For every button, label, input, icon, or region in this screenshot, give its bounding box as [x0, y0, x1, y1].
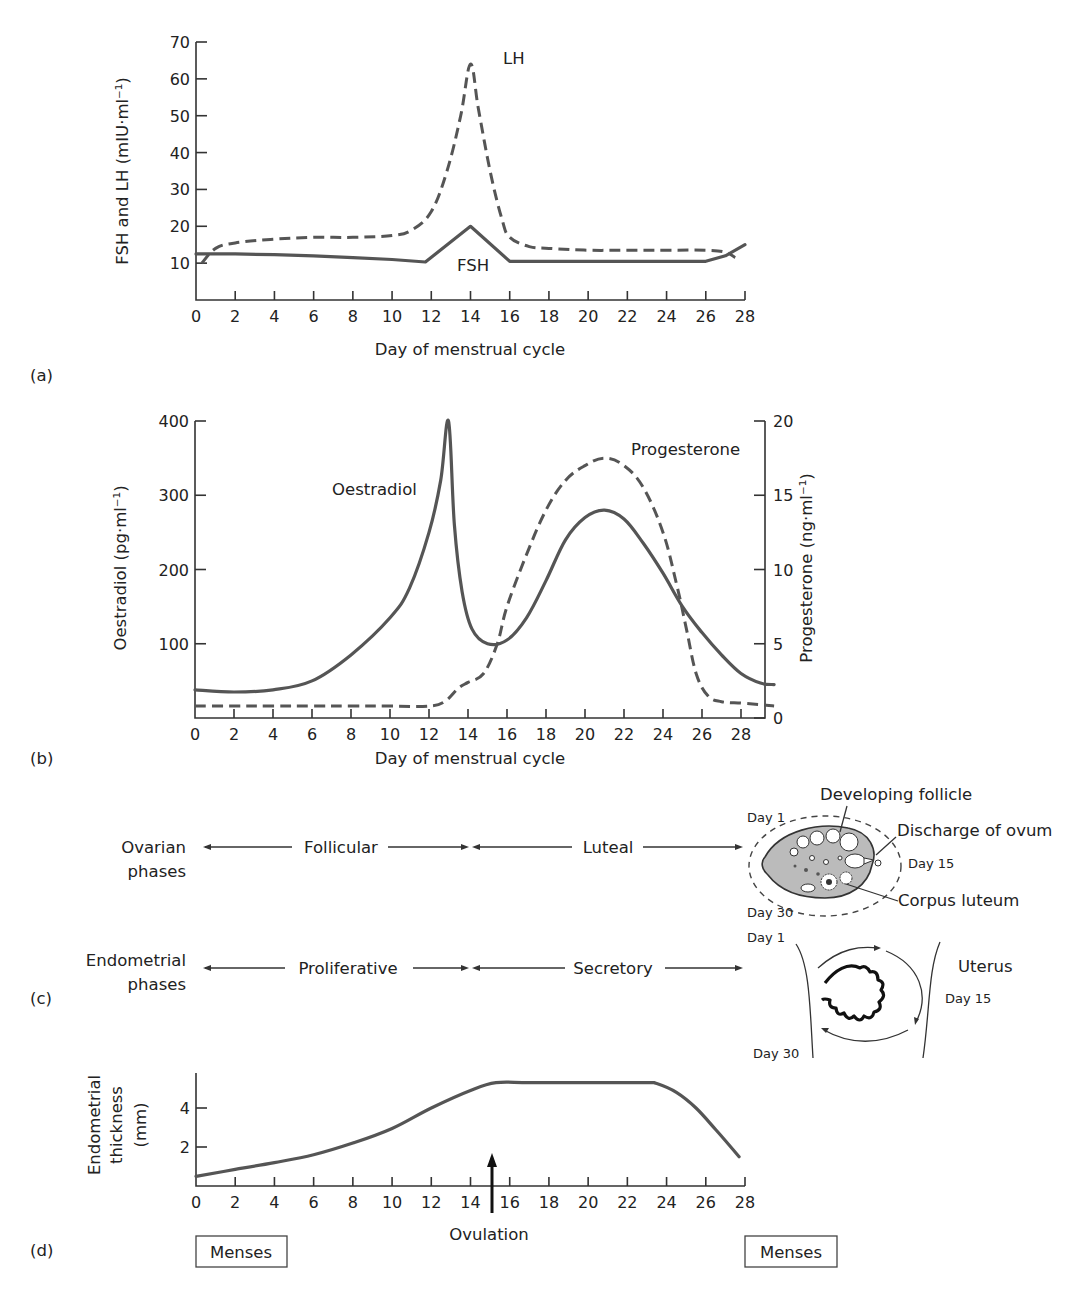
- x-tick-label: 14: [460, 1193, 480, 1212]
- x-tick-label: 0: [191, 307, 201, 326]
- x-tick-label: 24: [656, 1193, 676, 1212]
- fsh-label: FSH: [457, 256, 489, 275]
- panel-b-chart: 0246810121416182022242628100200300400051…: [30, 412, 816, 768]
- x-tick-label: 20: [578, 307, 598, 326]
- secretory-label: Secretory: [573, 959, 653, 978]
- x-tick-label: 24: [656, 307, 676, 326]
- x-tick-label: 28: [735, 1193, 755, 1212]
- progesterone-label: Progesterone: [631, 440, 740, 459]
- x-tick-label: 2: [230, 307, 240, 326]
- x-tick-label: 16: [500, 1193, 520, 1212]
- discharge-of-ovum-label: Discharge of ovum: [897, 821, 1052, 840]
- x-tick-label: 16: [497, 725, 517, 744]
- panel-a-ylabel: FSH and LH (mIU·ml⁻¹): [113, 77, 132, 265]
- panel-d-label: (d): [30, 1241, 53, 1260]
- ovary-day15-label: Day 15: [908, 856, 954, 871]
- lh-label: LH: [503, 49, 525, 68]
- developing-follicle-label: Developing follicle: [820, 785, 972, 804]
- panel-b-ylabel-right: Progesterone (ng·ml⁻¹): [797, 473, 816, 662]
- panel-a-chart: 024681012141618202224262810203040506070 …: [30, 33, 755, 385]
- panel-d-ylabel-2: thickness: [107, 1086, 126, 1164]
- x-tick-label: 12: [421, 1193, 441, 1212]
- x-tick-label: 10: [382, 307, 402, 326]
- panel-d-chart: 024681012141618202224262824 Ovulation En…: [30, 1073, 837, 1267]
- y-tick-label: 100: [158, 635, 189, 654]
- x-tick-label: 20: [575, 725, 595, 744]
- x-tick-label: 16: [500, 307, 520, 326]
- y-right-tick-label: 20: [773, 412, 793, 431]
- x-tick-label: 20: [578, 1193, 598, 1212]
- x-tick-label: 22: [614, 725, 634, 744]
- x-tick-label: 4: [269, 1193, 279, 1212]
- x-tick-label: 26: [692, 725, 712, 744]
- x-tick-label: 12: [419, 725, 439, 744]
- x-tick-label: 8: [348, 307, 358, 326]
- x-tick-label: 26: [696, 1193, 716, 1212]
- ovarian-title-2: phases: [128, 862, 186, 881]
- y-tick-label: 400: [158, 412, 189, 431]
- uterus-label: Uterus: [958, 957, 1013, 976]
- progesterone-series: [195, 458, 774, 706]
- y-right-tick-label: 15: [773, 486, 793, 505]
- axis-lines: [195, 421, 765, 718]
- x-tick-label: 10: [382, 1193, 402, 1212]
- x-tick-label: 8: [348, 1193, 358, 1212]
- endometrial-title-2: phases: [128, 975, 186, 994]
- y-tick-label: 2: [180, 1138, 190, 1157]
- ovulation-label: Ovulation: [449, 1225, 529, 1244]
- panel-b-ylabel-left: Oestradiol (pg·ml⁻¹): [111, 485, 130, 650]
- ovary-day30-label: Day 30: [747, 905, 793, 920]
- y-tick-label: 50: [170, 107, 190, 126]
- x-tick-label: 28: [735, 307, 755, 326]
- x-tick-label: 14: [460, 307, 480, 326]
- x-tick-label: 18: [536, 725, 556, 744]
- panel-c-phases: Ovarian phases Follicular Luteal Endomet…: [30, 785, 1052, 1061]
- oestradiol-series: [195, 420, 774, 692]
- follicular-label: Follicular: [304, 838, 378, 857]
- endometrial-title-1: Endometrial: [86, 951, 186, 970]
- x-tick-label: 2: [230, 1193, 240, 1212]
- x-tick-label: 6: [309, 1193, 319, 1212]
- y-tick-label: 70: [170, 33, 190, 52]
- y-tick-label: 10: [170, 254, 190, 273]
- y-tick-label: 40: [170, 144, 190, 163]
- uterus-day30-label: Day 30: [753, 1046, 799, 1061]
- ovarian-title-1: Ovarian: [121, 838, 186, 857]
- x-tick-label: 22: [617, 307, 637, 326]
- x-tick-label: 22: [617, 1193, 637, 1212]
- x-tick-label: 0: [191, 1193, 201, 1212]
- proliferative-label: Proliferative: [298, 959, 397, 978]
- panel-a-xlabel: Day of menstrual cycle: [375, 340, 566, 359]
- panel-a-label: (a): [30, 366, 53, 385]
- corpus-luteum-label: Corpus luteum: [898, 891, 1019, 910]
- x-tick-label: 12: [421, 307, 441, 326]
- y-right-tick-label: 5: [773, 635, 783, 654]
- y-right-tick-label: 0: [773, 709, 783, 728]
- x-tick-label: 4: [268, 725, 278, 744]
- y-tick-label: 4: [180, 1099, 190, 1118]
- menses-right-label: Menses: [760, 1243, 822, 1262]
- uterus-day15-label: Day 15: [945, 991, 991, 1006]
- ovulation-arrow-icon: [487, 1153, 497, 1213]
- panel-b-label: (b): [30, 749, 53, 768]
- panel-b-xlabel: Day of menstrual cycle: [375, 749, 566, 768]
- y-tick-label: 300: [158, 486, 189, 505]
- uterus-diagram: [796, 942, 940, 1058]
- panel-d-ylabel-1: Endometrial: [85, 1075, 104, 1175]
- x-tick-label: 28: [731, 725, 751, 744]
- x-tick-label: 14: [458, 725, 478, 744]
- x-tick-label: 26: [696, 307, 716, 326]
- x-tick-label: 6: [309, 307, 319, 326]
- luteal-label: Luteal: [583, 838, 634, 857]
- panel-c-label: (c): [30, 989, 52, 1008]
- x-tick-label: 6: [307, 725, 317, 744]
- oestradiol-label: Oestradiol: [332, 480, 417, 499]
- y-tick-label: 60: [170, 70, 190, 89]
- menstrual-cycle-figure: 024681012141618202224262810203040506070 …: [0, 0, 1091, 1298]
- y-tick-label: 20: [170, 217, 190, 236]
- x-tick-label: 18: [539, 1193, 559, 1212]
- endometrial-thickness-series: [196, 1082, 739, 1176]
- y-tick-label: 30: [170, 180, 190, 199]
- menses-left-label: Menses: [210, 1243, 272, 1262]
- uterus-day1-label: Day 1: [747, 930, 785, 945]
